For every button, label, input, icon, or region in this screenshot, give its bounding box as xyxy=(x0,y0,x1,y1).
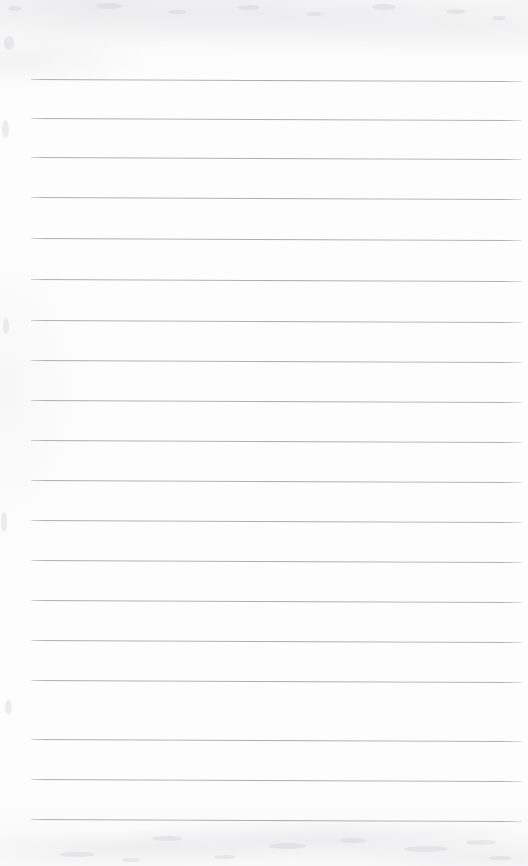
scan-speck xyxy=(60,852,94,857)
scan-speck xyxy=(238,5,260,10)
scan-speck xyxy=(122,858,140,862)
scanned-page xyxy=(0,0,528,866)
scan-speck xyxy=(214,855,236,859)
scan-speck xyxy=(492,16,506,20)
scan-speck xyxy=(4,36,14,50)
scan-speck xyxy=(488,856,512,860)
scan-speck xyxy=(5,700,12,714)
scan-speck xyxy=(96,3,122,9)
scan-speck xyxy=(1,512,7,532)
scan-speck xyxy=(404,846,448,852)
scan-speck xyxy=(446,9,466,14)
scan-speck xyxy=(8,6,21,11)
scan-speck xyxy=(306,12,322,16)
scan-speck xyxy=(3,318,9,334)
scan-speck xyxy=(268,843,306,849)
scan-speck xyxy=(168,10,186,14)
page-writing-area[interactable] xyxy=(31,60,522,840)
scan-speck xyxy=(2,120,9,138)
scan-speck xyxy=(372,4,396,10)
scan-speck xyxy=(466,840,496,845)
